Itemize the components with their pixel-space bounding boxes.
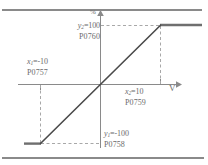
label-x1-value: =-10: [33, 57, 48, 66]
label-y1-param: P0758: [104, 140, 159, 149]
label-y1-value: =-100: [110, 129, 129, 138]
label-y2-value: =100: [84, 21, 100, 30]
label-x2: x2=10 P0759: [125, 87, 175, 107]
label-x2-value: =10: [131, 87, 143, 96]
label-x2-param: P0759: [125, 98, 175, 107]
label-x1: x1=-10 P0757: [27, 57, 77, 77]
label-y1: y1=-100 P0758: [104, 129, 159, 149]
label-x1-param: P0757: [27, 68, 77, 77]
label-y2: y2=100 P0760: [56, 21, 100, 41]
figure-container: % V y2=100 P0760 x1=-10 P0757 x2=10 P075…: [0, 0, 208, 165]
y-axis-unit-label: %: [90, 8, 96, 16]
label-y2-param: P0760: [56, 32, 100, 41]
